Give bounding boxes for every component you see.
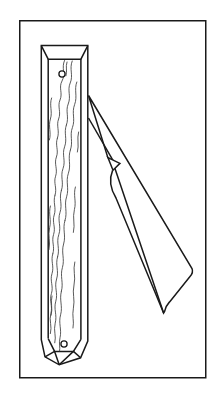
paper-background [0, 0, 222, 401]
figure-container: Folding knife with wooden handle Patent-… [0, 0, 222, 401]
bottom-pin [61, 341, 67, 347]
top-pivot-pin [59, 71, 65, 77]
knife-line-drawing: Folding knife with wooden handle Patent-… [0, 0, 222, 401]
grain-line [51, 296, 52, 315]
wooden-handle [41, 46, 88, 365]
